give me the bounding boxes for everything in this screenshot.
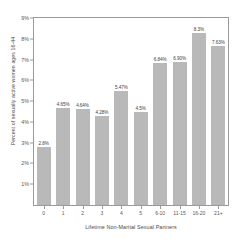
- bar-group-21+: 7.63%: [209, 18, 228, 205]
- x-tick-mark: [63, 206, 64, 209]
- x-tick-mark: [102, 206, 103, 209]
- y-tick-mark: [30, 163, 33, 164]
- y-tick-label-6%: 6%: [1, 77, 29, 83]
- y-tick-label-8%: 8%: [1, 36, 29, 42]
- y-tick-mark: [30, 18, 33, 19]
- x-tick-label-11-15: 11-15: [170, 206, 189, 218]
- bar-value-label: 8.3%: [194, 27, 204, 32]
- x-tick-mark: [199, 206, 200, 209]
- bar-value-label: 4.5%: [136, 106, 146, 111]
- x-tick-label-5: 5: [131, 206, 150, 218]
- x-tick-label-21+: 21+: [209, 206, 228, 218]
- bar-group-1: 4.65%: [53, 18, 72, 205]
- y-tick-mark: [30, 80, 33, 81]
- y-tick-mark: [30, 101, 33, 102]
- bar-value-label: 7.63%: [212, 40, 225, 45]
- bar: [192, 33, 206, 205]
- x-tick-mark: [218, 206, 219, 209]
- y-tick-label-2%: 2%: [1, 160, 29, 166]
- bar-value-label: 5.47%: [115, 85, 128, 90]
- bar-value-label: 4.65%: [57, 102, 70, 107]
- y-tick-label-9%: 9%: [1, 15, 29, 21]
- bar-group-4: 5.47%: [112, 18, 131, 205]
- x-tick-mark: [121, 206, 122, 209]
- x-tick-mark: [160, 206, 161, 209]
- bar-value-label: 4.64%: [76, 103, 89, 108]
- x-tick-label-3: 3: [92, 206, 111, 218]
- y-tick-mark: [30, 59, 33, 60]
- bar: [56, 108, 70, 205]
- x-tick-label-6-10: 6-10: [150, 206, 169, 218]
- bar-group-16-20: 8.3%: [189, 18, 208, 205]
- x-axis-title: Lifetime Non-Marital Sexual Partners: [33, 224, 229, 230]
- bar-chart: Percent of sexually active women ages 16…: [0, 0, 237, 247]
- y-tick-label-5%: 5%: [1, 98, 29, 104]
- x-tick-mark: [141, 206, 142, 209]
- bar-value-label: 6.84%: [154, 57, 167, 62]
- bar: [211, 46, 225, 205]
- x-tick-label-0: 0: [34, 206, 53, 218]
- bar-group-2: 4.64%: [73, 18, 92, 205]
- x-tick-label-1: 1: [53, 206, 72, 218]
- x-tick-label-16-20: 16-20: [189, 206, 208, 218]
- bar-value-label: 4.28%: [96, 110, 109, 115]
- bar: [95, 116, 109, 205]
- bar-group-0: 2.8%: [34, 18, 53, 205]
- y-tick-mark: [30, 38, 33, 39]
- x-tick-label-2: 2: [73, 206, 92, 218]
- bar: [37, 147, 51, 205]
- x-axis-ticks: 0123456-1011-1516-2021+: [34, 206, 228, 218]
- x-tick-label-4: 4: [112, 206, 131, 218]
- x-tick-mark: [180, 206, 181, 209]
- bar: [134, 112, 148, 206]
- x-tick-mark: [83, 206, 84, 209]
- x-tick-mark: [44, 206, 45, 209]
- bar-group-11-15: 6.90%: [170, 18, 189, 205]
- y-axis-ticks: 1%2%3%4%5%6%7%8%9%: [0, 17, 33, 206]
- y-tick-mark: [30, 121, 33, 122]
- y-tick-label-4%: 4%: [1, 119, 29, 125]
- y-tick-mark: [30, 184, 33, 185]
- bar: [153, 63, 167, 205]
- y-tick-label-1%: 1%: [1, 181, 29, 187]
- y-tick-label-3%: 3%: [1, 140, 29, 146]
- y-tick-mark: [30, 142, 33, 143]
- bar-value-label: 2.8%: [39, 141, 49, 146]
- bar-group-3: 4.28%: [92, 18, 111, 205]
- bars-container: 2.8%4.65%4.64%4.28%5.47%4.5%6.84%6.90%8.…: [34, 18, 228, 205]
- bar: [76, 109, 90, 205]
- bar: [114, 91, 128, 205]
- y-tick-label-7%: 7%: [1, 57, 29, 63]
- bar: [173, 62, 187, 205]
- bar-value-label: 6.90%: [173, 56, 186, 61]
- bar-group-5: 4.5%: [131, 18, 150, 205]
- bar-group-6-10: 6.84%: [150, 18, 169, 205]
